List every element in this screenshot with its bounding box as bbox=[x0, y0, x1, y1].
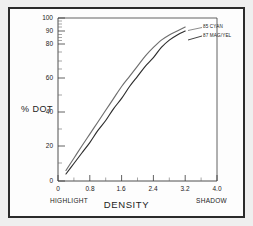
y-tick-label-0: 0 bbox=[37, 177, 53, 184]
x-axis-shadow-annotation: SHADOW bbox=[196, 197, 227, 204]
figure-frame: 100 90 80 60 40 20 0 0 0.8 1.6 2.4 3.2 4… bbox=[8, 7, 245, 218]
legend-label-85-cyan: 85 CYAN bbox=[203, 24, 223, 29]
x-tick-label-2-4: 2.4 bbox=[143, 185, 163, 192]
plot-background bbox=[58, 18, 217, 181]
y-tick-label-80: 80 bbox=[37, 40, 53, 47]
x-tick-label-1-6: 1.6 bbox=[111, 185, 131, 192]
x-tick-label-3-2: 3.2 bbox=[175, 185, 195, 192]
x-tick-label-0: 0 bbox=[48, 185, 68, 192]
y-tick-label-100: 100 bbox=[37, 14, 53, 21]
y-tick-label-60: 60 bbox=[37, 74, 53, 81]
x-axis-highlight-annotation: HIGHLIGHT bbox=[50, 197, 88, 204]
legend-label-87-mag-yel: 87 MAG/YEL bbox=[203, 33, 231, 38]
y-tick-label-90: 90 bbox=[37, 27, 53, 34]
y-axis-title: % DOT bbox=[21, 104, 53, 114]
x-tick-label-4-0: 4.0 bbox=[207, 185, 227, 192]
y-tick-label-20: 20 bbox=[37, 142, 53, 149]
x-tick-label-0-8: 0.8 bbox=[80, 185, 100, 192]
screenshot-root: 100 90 80 60 40 20 0 0 0.8 1.6 2.4 3.2 4… bbox=[0, 0, 253, 226]
